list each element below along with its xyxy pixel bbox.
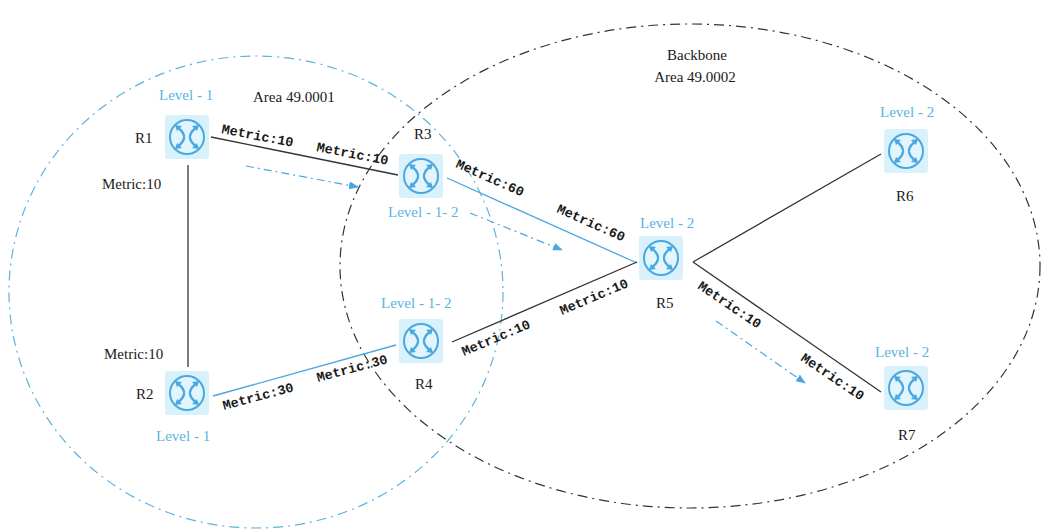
router-r6-level: Level - 2: [880, 104, 934, 120]
metric-r1-r3-b: Metric:10: [315, 140, 389, 169]
area-1-label: Area 49.0001: [253, 89, 335, 105]
metric-r1-r2-a: Metric:10: [102, 176, 161, 192]
router-icon: [399, 154, 443, 198]
link-r5-r6: [693, 154, 881, 262]
router-icon: [165, 115, 209, 159]
router-r2-level: Level - 1: [156, 428, 210, 444]
router-icon: [639, 236, 683, 280]
link-r3-r5: [447, 178, 637, 263]
traffic-arrow-r3-r5: [470, 213, 562, 250]
metric-r1-r2-b: Metric:10: [104, 346, 163, 362]
router-r5-name: R5: [656, 295, 674, 311]
router-r7-name: R7: [898, 427, 916, 443]
router-icon: [399, 319, 443, 363]
metric-r3-r5-b: Metric:60: [554, 202, 627, 245]
router-r1-name: R1: [135, 130, 153, 146]
router-r7-level: Level - 2: [875, 344, 929, 360]
router-r7[interactable]: [884, 366, 928, 410]
router-r3-level: Level - 1- 2: [388, 204, 458, 220]
traffic-arrow-r1-r3: [246, 166, 358, 187]
metric-r3-r5-a: Metric:60: [453, 157, 526, 200]
isis-topology-diagram: Area 49.0001 Backbone Area 49.0002 Metri…: [0, 0, 1059, 532]
router-icon: [884, 366, 928, 410]
router-r5[interactable]: [639, 236, 683, 280]
router-r6-name: R6: [896, 188, 914, 204]
metric-r4-r5-b: Metric:10: [558, 276, 631, 318]
router-r3-name: R3: [414, 126, 432, 142]
router-icon: [884, 129, 928, 173]
backbone-area-label: Area 49.0002: [654, 69, 736, 85]
backbone-area-boundary: [340, 24, 1040, 508]
router-r2[interactable]: [165, 371, 209, 415]
router-r4-name: R4: [415, 376, 433, 392]
router-r2-name: R2: [136, 386, 154, 402]
router-r3[interactable]: [399, 154, 443, 198]
link-r4-r5: [452, 262, 637, 342]
link-r5-r7: [693, 262, 881, 392]
router-r5-level: Level - 2: [640, 215, 694, 231]
router-r6[interactable]: [884, 129, 928, 173]
router-icon: [165, 371, 209, 415]
router-r4-level: Level - 1- 2: [381, 295, 451, 311]
backbone-label: Backbone: [667, 47, 727, 63]
router-r4[interactable]: [399, 319, 443, 363]
metric-r2-r4-a: Metric:30: [221, 381, 295, 414]
router-r1-level: Level - 1: [159, 87, 213, 103]
metric-r4-r5-a: Metric:10: [460, 317, 533, 359]
router-r1[interactable]: [165, 115, 209, 159]
